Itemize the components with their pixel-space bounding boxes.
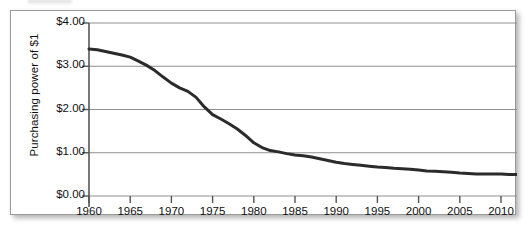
x-tick-label: 2000 — [396, 205, 442, 217]
chart-frame: Purchasing power of $1 $0.00$1.00$2.00$3… — [10, 10, 516, 215]
x-tick-label: 1960 — [66, 205, 112, 217]
x-tick-label: 1990 — [313, 205, 359, 217]
chart-figure: Purchasing power of $1 $0.00$1.00$2.00$3… — [0, 0, 531, 231]
x-tick-label: 1975 — [190, 205, 236, 217]
x-tick-label: 1965 — [107, 205, 153, 217]
x-tick-label: 1980 — [231, 205, 277, 217]
x-tick-label: 1985 — [272, 205, 318, 217]
x-tick-label: 2010 — [478, 205, 524, 217]
x-axis-tick-labels: 1960196519701975198019851990199520002005… — [11, 11, 517, 216]
x-tick-label: 1970 — [148, 205, 194, 217]
cropped-text-artifact — [28, 0, 72, 5]
x-tick-label: 1995 — [354, 205, 400, 217]
x-tick-label: 2005 — [437, 205, 483, 217]
